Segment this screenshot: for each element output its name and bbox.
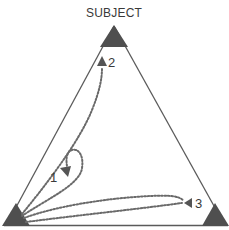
edge-right: [114, 26, 224, 224]
path-3: 3: [24, 196, 202, 222]
path-2-label: 2: [108, 55, 115, 70]
path-2: 2: [22, 55, 115, 214]
edge-left: [7, 26, 114, 224]
triangle-diagram: SUBJECT 2 1 3: [0, 0, 229, 230]
subject-label: SUBJECT: [86, 6, 143, 20]
path-2-arrowhead: [97, 56, 107, 66]
path-1-arrowhead: [60, 166, 71, 177]
vertex-bottom-right-marker: [202, 203, 229, 226]
path-2-line: [22, 68, 102, 214]
path-1-label: 1: [50, 170, 57, 185]
path-3-line-secondary: [26, 203, 182, 222]
path-3-arrowhead: [184, 198, 192, 208]
path-3-label: 3: [195, 196, 202, 211]
vertex-top-marker: [100, 25, 128, 47]
